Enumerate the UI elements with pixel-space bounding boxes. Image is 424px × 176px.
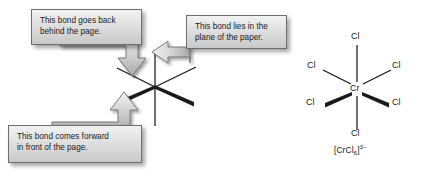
- callout-plane-line2: plane of the paper.: [195, 33, 279, 44]
- atom-label-cl-upper-right: Cl: [392, 60, 401, 70]
- structure-bond-upper-left: [323, 70, 351, 84]
- callout-arrow-left: [152, 41, 190, 63]
- atom-label-cl-lower-right: Cl: [392, 97, 401, 107]
- callout-bond-comes-forward: This bond comes forward in front of the …: [8, 125, 142, 163]
- callout-bond-goes-back: This bond goes back behind the page.: [31, 9, 142, 45]
- bond-lower-right: [155, 85, 194, 106]
- callout-forward-line2: in front of the page.: [17, 143, 134, 154]
- structure-bond-upper-right: [363, 70, 391, 84]
- callout-bond-in-plane: This bond lies in the plane of the paper…: [186, 15, 287, 49]
- structure-bond-lower-left: [325, 92, 352, 108]
- formula-charge: 3–: [360, 143, 367, 150]
- chemistry-figure: This bond goes back behind the page. Thi…: [0, 0, 424, 176]
- bond-upper-right: [155, 67, 196, 87]
- callout-back-line1: This bond goes back: [40, 16, 134, 27]
- structure-bond-lower-right: [362, 92, 389, 108]
- atom-label-cl-lower-left: Cl: [306, 97, 315, 107]
- formula-ligand: Cl: [345, 145, 353, 155]
- callout-forward-line1: This bond comes forward: [17, 132, 134, 143]
- atom-label-cr-center: Cr: [350, 83, 360, 93]
- atom-label-cl-top: Cl: [351, 31, 360, 41]
- atom-label-cl-upper-left: Cl: [307, 60, 316, 70]
- callout-back-line2: behind the page.: [40, 27, 134, 38]
- atom-label-cl-bottom: Cl: [351, 128, 360, 138]
- callout-plane-line1: This bond lies in the: [195, 22, 279, 33]
- structure-formula: [CrCl6]3–: [334, 143, 367, 156]
